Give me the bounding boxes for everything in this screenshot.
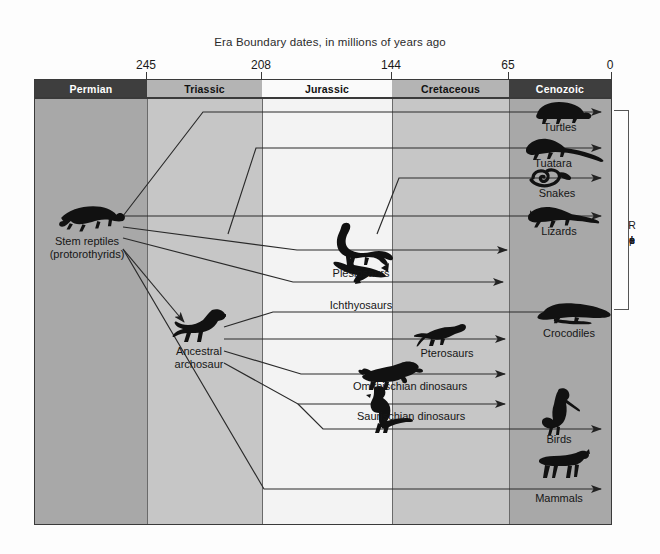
label-pterosaurs: Pterosaurs — [420, 347, 473, 360]
label-archosaur-line2: archosaur — [175, 358, 224, 371]
label-ornithischian: Omithischian dinosaurs — [353, 380, 467, 393]
label-ichthyosaurs: Ichthyosaurs — [330, 299, 392, 312]
label-snakes: Snakes — [539, 187, 576, 200]
label-birds: Birds — [546, 433, 571, 446]
label-mammals: Mammals — [535, 492, 583, 505]
era-cretaceous: Cretaceous — [392, 80, 509, 97]
axis-tick-0: 0 — [607, 58, 614, 72]
label-stem-reptiles-line2: (protorothyrids) — [50, 248, 125, 261]
bird-icon — [542, 388, 580, 435]
label-saurischian: Saurischian dinosaurs — [357, 410, 465, 423]
label-lizards: Lizards — [541, 225, 576, 238]
era-cenozoic: Cenozoic — [509, 80, 611, 97]
axis-tick-245: 245 — [136, 58, 156, 72]
axis-tick-65: 65 — [501, 58, 514, 72]
reptiles-letter-7: s — [625, 233, 639, 248]
era-permian: Permian — [35, 80, 147, 97]
label-crocodiles: Crocodiles — [543, 327, 595, 340]
archosaur-icon — [173, 309, 226, 342]
reptiles-label: R e p t i l e s — [625, 218, 639, 233]
stem-reptiles-icon — [59, 206, 125, 231]
reptiles-bracket — [614, 110, 629, 310]
figure-caption: Era Boundary dates, in millions of years… — [0, 36, 660, 48]
label-stem-reptiles-line1: Stem reptiles — [55, 235, 119, 248]
figure-root: Era Boundary dates, in millions of years… — [0, 0, 660, 554]
pterosaur-icon — [414, 324, 466, 347]
era-triassic: Triassic — [147, 80, 262, 97]
plesiosaur-icon — [337, 223, 393, 265]
label-plesiosaurs: Plesiosaurs — [333, 267, 390, 280]
label-archosaur-line1: Ancestral — [176, 345, 222, 358]
axis-tick-144: 144 — [381, 58, 401, 72]
era-bar: Permian Triassic Jurassic Cretaceous Cen… — [34, 79, 612, 98]
reptiles-letter-0: R — [625, 218, 639, 233]
timeline-plot: Stem reptiles (protorothyrids) Turtles T… — [34, 98, 612, 525]
label-turtles: Turtles — [543, 121, 576, 134]
mammal-icon — [539, 449, 590, 478]
crocodile-icon — [537, 303, 610, 324]
era-jurassic: Jurassic — [262, 80, 392, 97]
axis-tick-208: 208 — [251, 58, 271, 72]
lineage-lines — [35, 99, 611, 524]
label-tuatara: Tuatara — [534, 157, 572, 170]
